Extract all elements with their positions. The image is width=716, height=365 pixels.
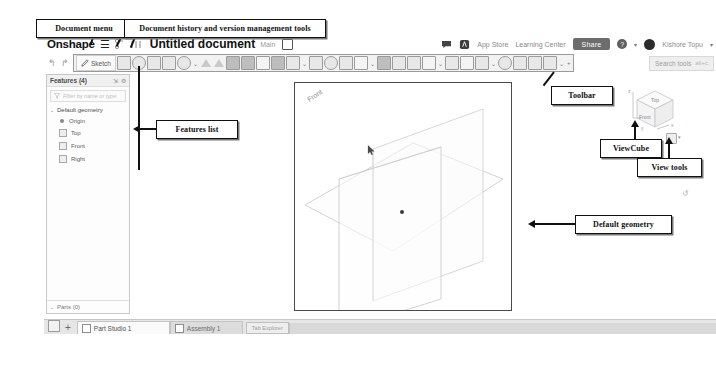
annotation-toolbar: Toolbar [551, 86, 613, 105]
comments-icon[interactable] [441, 40, 452, 49]
annotation-label: Default geometry [593, 220, 654, 229]
feature-node-origin[interactable]: Origin [47, 115, 129, 126]
extrude-icon[interactable] [200, 57, 212, 69]
insert-icon[interactable] [543, 56, 557, 70]
mass-icon[interactable] [513, 56, 527, 70]
search-tools-shortcut: alt+c [695, 60, 708, 66]
annotation-label: Features list [175, 125, 218, 134]
chamfer-icon[interactable] [309, 56, 323, 70]
extrude-dropdown[interactable]: ⌄ [192, 60, 199, 67]
collapse-icon[interactable]: ⇲ [113, 77, 118, 84]
sketch-button[interactable]: Sketch [76, 55, 116, 71]
features-panel-footer: ⌄ Parts (0) [47, 300, 129, 313]
redo-icon[interactable]: ↱ [59, 58, 70, 68]
origin-point[interactable] [400, 210, 404, 214]
feature-node-right[interactable]: Right [47, 152, 129, 165]
plane-icon[interactable] [117, 56, 131, 70]
hole-icon[interactable] [177, 56, 191, 70]
fillet-icon[interactable] [286, 56, 300, 70]
chevron-down-icon[interactable]: ⌄ [50, 107, 54, 113]
split-icon[interactable] [392, 56, 406, 70]
viewcube-axis-x-label: x [671, 122, 674, 128]
chevron-down-icon[interactable]: ⌄ [50, 304, 54, 310]
view-display-caret-icon[interactable]: ▾ [678, 134, 681, 140]
undo-icon[interactable]: ↰ [46, 58, 57, 68]
feature-node-label: Origin [69, 118, 85, 124]
document-title[interactable]: Untitled document [150, 37, 255, 51]
graphics-viewport[interactable]: Front [294, 82, 512, 311]
viewcube-top-label: Top [651, 97, 659, 103]
pattern-icon[interactable] [422, 56, 436, 70]
share-button[interactable]: Share [573, 38, 611, 50]
app-store-link[interactable]: App Store [477, 41, 508, 48]
help-caret-icon[interactable]: ▾ [634, 41, 637, 48]
user-caret-icon[interactable]: ▾ [710, 41, 713, 48]
rotate-icon[interactable]: ↺ [682, 189, 689, 198]
features-panel-title: Features (4) [50, 77, 87, 84]
thicken-icon[interactable] [256, 56, 270, 70]
user-name-label[interactable]: Kishore Topu [662, 41, 703, 48]
loft-icon[interactable] [147, 56, 161, 70]
revolve-icon[interactable] [213, 57, 225, 69]
tab-bar: + Part Studio 1 Assembly 1 Tab Explorer [44, 319, 716, 334]
fillet-dropdown[interactable]: ⌄ [301, 60, 308, 67]
annotation-features-list: Features list [156, 120, 238, 139]
tab-explorer-label: Tab Explorer [252, 325, 283, 331]
sweep2-icon[interactable] [226, 56, 240, 70]
arrowhead-default-geometry [528, 220, 535, 228]
tab-label: Assembly 1 [187, 325, 221, 332]
hamburger-icon[interactable]: ☰ [100, 39, 110, 50]
sketch-cursor-icon [367, 145, 376, 156]
mirror-icon[interactable] [407, 56, 421, 70]
features-panel: Features (4) ⇲ ⚙ Filter by name or type … [46, 74, 130, 314]
plane-icon [59, 129, 67, 137]
bracket-features-list [138, 66, 140, 170]
insert-dropdown[interactable]: ⌄ [558, 60, 565, 67]
boolean-icon[interactable] [377, 56, 391, 70]
draft-icon[interactable] [324, 56, 338, 70]
leader-view-tools [668, 143, 670, 159]
help-icon[interactable]: ? [617, 39, 627, 49]
topbar-right-group: App Store Learning Center Share ? ▾ Kish… [441, 38, 716, 50]
feature-node-front[interactable]: Front [47, 139, 129, 152]
annotation-default-geometry: Default geometry [575, 215, 672, 234]
learning-center-link[interactable]: Learning Center [515, 41, 565, 48]
tab-part-studio-1[interactable]: Part Studio 1 [77, 321, 170, 334]
sketch-point-icon[interactable] [475, 56, 489, 70]
workspace-icon[interactable] [282, 39, 293, 50]
rib-icon[interactable] [162, 56, 176, 70]
avatar[interactable] [644, 39, 655, 50]
search-tools-box[interactable]: Search tools alt+c [649, 56, 714, 71]
features-group-default-geometry[interactable]: ⌄ Default geometry [47, 105, 129, 115]
annotation-viewcube: ViewCube [600, 139, 662, 158]
annotation-document-history: Document history and version management … [124, 19, 326, 38]
dropdown-2[interactable]: ⌄ [490, 60, 497, 67]
leader-default-geometry [535, 223, 575, 225]
features-filter-input[interactable]: Filter by name or type [50, 90, 126, 102]
tab-explorer-button[interactable]: Tab Explorer [246, 322, 289, 334]
tab-list-icon[interactable] [48, 320, 60, 332]
part-studio-icon [82, 324, 91, 333]
variable-icon[interactable] [528, 56, 542, 70]
gear-icon[interactable]: ⚙ [121, 77, 126, 84]
tab-assembly-1[interactable]: Assembly 1 [170, 321, 243, 334]
arrowhead-viewcube [631, 120, 639, 127]
transform-dropdown[interactable]: ⌄ [369, 60, 376, 67]
add-tab-button[interactable]: + [65, 323, 71, 333]
feature-node-top[interactable]: Top [47, 126, 129, 139]
sketch-pencil-icon [81, 59, 89, 67]
axis-icon[interactable] [460, 56, 474, 70]
measure-icon[interactable] [498, 56, 512, 70]
feature-node-label: Front [71, 143, 85, 149]
pattern-dropdown[interactable]: ⌄ [437, 60, 444, 67]
app-store-icon[interactable] [459, 39, 470, 50]
transform-icon[interactable] [354, 56, 368, 70]
loft2-icon[interactable] [241, 56, 255, 70]
enclose-icon[interactable] [271, 56, 285, 70]
add-custom-feature[interactable]: + [566, 60, 572, 66]
parts-label: Parts (0) [57, 304, 80, 310]
plane-tool-icon[interactable] [445, 56, 459, 70]
leader-features-list [140, 128, 156, 130]
shell-icon[interactable] [339, 56, 353, 70]
parts-section[interactable]: ⌄ Parts (0) [47, 301, 129, 313]
